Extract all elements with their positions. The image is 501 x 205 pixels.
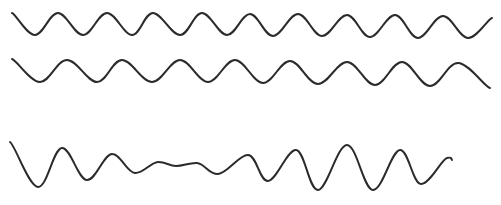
regular-wave-2 (12, 59, 490, 88)
wave-drawing-canvas (0, 0, 501, 205)
irregular-wave-3 (10, 142, 452, 190)
waves-svg (0, 0, 501, 205)
regular-wave-1 (12, 13, 492, 38)
